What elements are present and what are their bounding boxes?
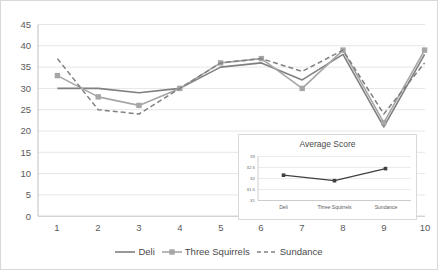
x-tick-label: 8 <box>331 223 355 233</box>
x-tick-label: 9 <box>372 223 396 233</box>
inset-x-tick-label: Deli <box>267 204 300 210</box>
inset-series-markers <box>282 167 388 183</box>
series-line-sundance <box>57 50 424 114</box>
inset-x-tick-label: Sundance <box>367 204 405 210</box>
x-tick-label: 7 <box>290 223 314 233</box>
x-tick-label: 1 <box>45 223 69 233</box>
x-tick-label: 3 <box>127 223 151 233</box>
legend-label: Deli <box>138 246 154 257</box>
x-tick-label: 5 <box>209 223 233 233</box>
inset-chart-average-score: Average Score 33 32.5 32 31.5 31 Deli Th… <box>238 134 417 220</box>
solid-line-swatch-icon <box>115 248 135 256</box>
legend-item-sundance[interactable]: Sundance <box>257 246 323 257</box>
series-markers-three-squirrels <box>55 47 428 125</box>
line-chart: 45 40 35 30 25 20 15 10 5 0 <box>0 0 438 270</box>
legend-item-three-squirrels[interactable]: Three Squirrels <box>162 246 250 257</box>
chart-legend: Deli Three Squirrels Sundance <box>1 246 437 257</box>
legend-item-deli[interactable]: Deli <box>115 246 154 257</box>
x-tick-label: 2 <box>86 223 110 233</box>
marker-line-swatch-icon <box>162 248 182 256</box>
inset-gridlines <box>258 157 411 190</box>
dashed-line-swatch-icon <box>257 248 277 256</box>
inset-x-tick-label: Three Squirrels <box>310 204 359 210</box>
x-tick-label: 10 <box>413 223 437 233</box>
legend-label: Sundance <box>280 246 323 257</box>
x-tick-label: 6 <box>249 223 273 233</box>
x-tick-label: 4 <box>168 223 192 233</box>
legend-label: Three Squirrels <box>185 246 250 257</box>
series-line-three-squirrels <box>57 50 424 123</box>
